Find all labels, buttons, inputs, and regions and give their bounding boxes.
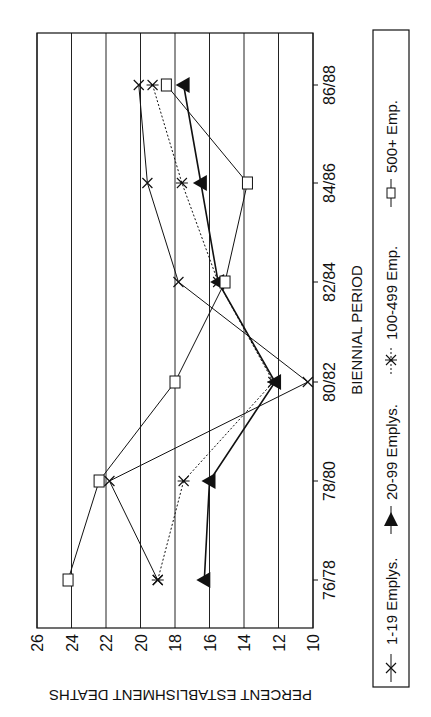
- square-marker-icon: [63, 574, 73, 586]
- y-tick-label: 14: [236, 634, 253, 652]
- legend-label: 100-499 Emp.: [383, 246, 400, 340]
- legend-label: 500+ Emp.: [383, 100, 400, 173]
- y-tick-label: 26: [29, 634, 46, 652]
- y-tick-label: 18: [167, 634, 184, 652]
- asterisk-marker-icon: [152, 575, 164, 585]
- y-tick-label: 20: [133, 634, 150, 652]
- square-marker-icon: [170, 376, 180, 388]
- series-line: [68, 85, 247, 580]
- asterisk-marker-icon: [178, 476, 190, 486]
- legend-item: 20-99 Emplys.: [383, 404, 400, 534]
- legend-label: 1-19 Emplys.: [383, 557, 400, 645]
- series-3: [147, 80, 280, 585]
- x-marker-icon: [303, 377, 313, 387]
- square-marker-icon: [242, 177, 252, 189]
- x-tick-label: 86/88: [321, 65, 338, 105]
- asterisk-marker-icon: [147, 80, 159, 90]
- x-tick-label: 84/86: [321, 163, 338, 203]
- y-tick-label: 24: [64, 634, 81, 652]
- series-layer: [63, 77, 313, 588]
- series-line: [184, 85, 275, 580]
- legend-label: 20-99 Emplys.: [383, 404, 400, 500]
- triangle-marker-icon: [176, 77, 190, 93]
- y-tick-label: 12: [271, 634, 288, 652]
- triangle-marker-icon: [384, 512, 398, 526]
- y-tick-label: 16: [202, 634, 219, 652]
- gridlines: [37, 33, 313, 628]
- asterisk-marker-icon: [176, 178, 188, 188]
- series-line: [153, 85, 274, 580]
- square-marker-icon: [161, 79, 171, 91]
- x-tick-label: 82/84: [321, 262, 338, 302]
- x-axis-ticks: 76/7878/8080/8282/8484/8686/88: [313, 65, 338, 600]
- x-tick-label: 78/80: [321, 461, 338, 501]
- y-axis-title: PERCENT ESTABLISHMENT DEATHS: [49, 687, 312, 704]
- x-tick-label: 80/82: [321, 362, 338, 402]
- y-axis-ticks: 101214161820222426: [29, 634, 322, 652]
- legend-item: 1-19 Emplys.: [383, 557, 400, 682]
- chart: 101214161820222426 76/7878/8080/8282/848…: [0, 0, 431, 717]
- square-marker-icon: [220, 276, 230, 288]
- series-2: [176, 77, 281, 588]
- x-axis-title: BIENNIAL PERIOD: [348, 265, 365, 395]
- y-tick-label: 22: [98, 634, 115, 652]
- series-4: [63, 79, 252, 586]
- legend-item: 100-499 Emp.: [383, 246, 400, 374]
- legend-item: 500+ Emp.: [383, 100, 400, 207]
- legend: 1-19 Emplys.20-99 Emplys.100-499 Emp.500…: [383, 100, 400, 682]
- x-tick-label: 76/78: [321, 560, 338, 600]
- square-marker-icon: [387, 188, 395, 198]
- square-marker-icon: [94, 475, 104, 487]
- triangle-marker-icon: [196, 572, 210, 588]
- y-tick-label: 10: [305, 634, 322, 652]
